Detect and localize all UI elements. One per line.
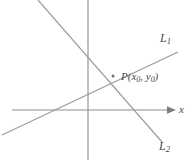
- x-axis-arrow-icon: [167, 106, 176, 114]
- figure-canvas: [0, 0, 192, 162]
- line-l1-label: L1: [160, 32, 171, 46]
- line-l1: [2, 52, 178, 135]
- geometry-figure: L1 L2 x P(x0, y0): [0, 0, 192, 162]
- line-l1-label-subscript: 1: [167, 36, 171, 46]
- point-p-label: P(x0, y0): [121, 71, 158, 84]
- point-p-prefix: P(: [121, 70, 131, 82]
- point-p-suffix: ): [155, 70, 159, 82]
- x-axis-label: x: [179, 104, 184, 115]
- line-l2-label-letter: L: [159, 139, 166, 153]
- line-l2-label: L2: [159, 140, 170, 154]
- line-l1-label-letter: L: [160, 31, 167, 45]
- intersection-point-dot: [112, 75, 115, 78]
- line-l2-label-subscript: 2: [166, 144, 170, 154]
